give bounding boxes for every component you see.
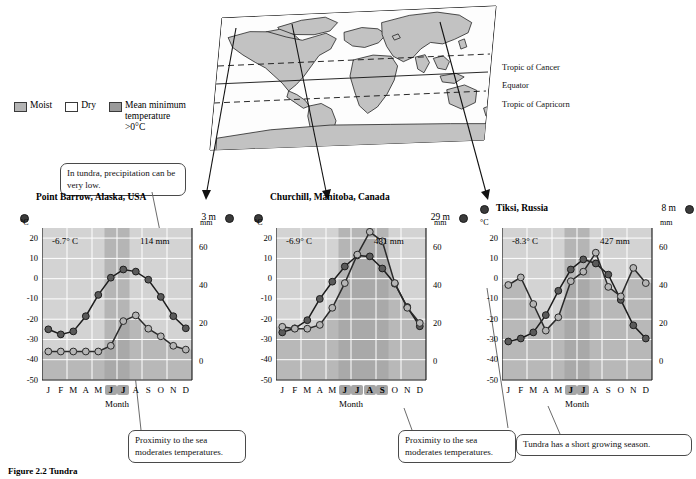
world-map-svg (208, 4, 498, 152)
figure-caption: Figure 2.2 Tundra (8, 466, 78, 476)
precipitation-series-point (82, 348, 89, 355)
precipitation-series-point (592, 249, 599, 256)
precipitation-tick-label: 0 (433, 356, 453, 366)
temperature-tick-label: 20 (252, 233, 272, 243)
month-tick-label: J (339, 385, 351, 395)
precipitation-tick-label: 40 (433, 280, 453, 290)
precipitation-series-point (279, 323, 286, 330)
climograph-title: Point Barrow, Alaska, USA (36, 192, 156, 203)
x-axis-label: Month (95, 399, 139, 409)
month-tick-label: M (326, 385, 338, 395)
month-tick-label: O (389, 385, 401, 395)
temperature-series-point (542, 312, 549, 319)
temperature-series-point (120, 266, 127, 273)
month-tick-label: M (301, 385, 313, 395)
temperature-tick-label: -30 (18, 334, 38, 344)
month-tick-label: A (364, 385, 376, 395)
temperature-tick-label: -30 (252, 334, 272, 344)
temperature-series-point (567, 266, 574, 273)
temperature-tick-label: 10 (478, 253, 498, 263)
temperature-series-point (642, 335, 649, 342)
mean-minimum-band (339, 228, 389, 380)
temperature-tick-label: -10 (252, 293, 272, 303)
callout-sea-moderates-2: Proximity to the sea moderates temperatu… (398, 430, 516, 463)
precipitation-series-point (341, 280, 348, 287)
temperature-series-point (157, 294, 164, 301)
month-tick-label: M (552, 385, 564, 395)
temperature-series-point (630, 322, 637, 329)
temperature-tick-label: -50 (478, 375, 498, 385)
precipitation-series-point (391, 280, 398, 287)
x-axis-label: Month (329, 399, 373, 409)
temperature-tick-label: -50 (252, 375, 272, 385)
legend-label-dry: Dry (81, 100, 96, 111)
annual-precipitation-label: 427 mm (600, 236, 630, 246)
temperature-tick-label: -20 (478, 314, 498, 324)
month-tick-label: M (527, 385, 539, 395)
precipitation-tick-label: 20 (433, 318, 453, 328)
month-tick-label: A (590, 385, 602, 395)
legend-label-mean-minimum: Mean minimum temperature >0°C (125, 100, 191, 133)
mean-temperature-label: -6.7° C (52, 236, 78, 246)
month-tick-label: J (42, 385, 54, 395)
precipitation-series-point (542, 327, 549, 334)
precipitation-tick-label: 60 (433, 242, 453, 252)
month-tick-label: N (627, 385, 639, 395)
precipitation-series-point (505, 282, 512, 289)
temperature-tick-label: -40 (252, 354, 272, 364)
temperature-series-point (132, 268, 139, 275)
month-tick-label: A (314, 385, 326, 395)
temperature-tick-label: -20 (18, 314, 38, 324)
temperature-tick-label: 10 (18, 253, 38, 263)
precipitation-series-point (517, 274, 524, 281)
month-tick-label: O (615, 385, 627, 395)
temperature-tick-label: -40 (478, 354, 498, 364)
precipitation-series-point (404, 304, 411, 311)
precipitation-series-point (605, 284, 612, 291)
temperature-series-point (580, 256, 587, 263)
station-marker-icon (480, 205, 489, 214)
legend-item-dry: Dry (65, 100, 96, 112)
temperature-series-point (555, 287, 562, 294)
legend-label-moist: Moist (30, 100, 52, 111)
precipitation-series-point (416, 320, 423, 327)
precipitation-series-point (366, 228, 373, 235)
temperature-tick-label: 0 (478, 273, 498, 283)
precipitation-tick-label: 60 (199, 242, 219, 252)
precipitation-tick-label: 40 (199, 280, 219, 290)
month-tick-label: J (577, 385, 589, 395)
month-tick-label: F (289, 385, 301, 395)
elevation-marker-icon (459, 214, 468, 223)
precipitation-series-point (642, 280, 649, 287)
world-map-panel (208, 4, 498, 152)
elevation-label: 8 m (661, 203, 676, 213)
temperature-series-point (366, 253, 373, 260)
temperature-series-point (107, 274, 114, 281)
precipitation-series-point (354, 251, 361, 258)
precipitation-series-point (580, 268, 587, 275)
temperature-tick-label: -40 (18, 354, 38, 364)
precipitation-tick-label: 20 (199, 318, 219, 328)
callout-sea-moderates-1: Proximity to the sea moderates temperatu… (128, 430, 246, 463)
mean-temperature-label: -8.3° C (512, 236, 538, 246)
temperature-unit-label: °C (480, 218, 489, 227)
mean-minimum-swatch-icon (109, 102, 122, 112)
temperature-series-point (517, 335, 524, 342)
temperature-tick-label: -10 (478, 293, 498, 303)
legend: Moist Dry Mean minimum temperature >0°C (14, 100, 204, 133)
climograph-plot (502, 228, 654, 382)
month-tick-label: J (276, 385, 288, 395)
precipitation-series-point (182, 346, 189, 353)
month-tick-label: D (640, 385, 652, 395)
month-tick-label: D (414, 385, 426, 395)
temperature-series-point (170, 313, 177, 320)
temperature-unit-label: °C (254, 218, 263, 227)
month-tick-label: M (67, 385, 79, 395)
month-tick-label: F (55, 385, 67, 395)
temperature-tick-label: 20 (18, 233, 38, 243)
temperature-series-point (182, 325, 189, 332)
precipitation-series-point (304, 325, 311, 332)
precipitation-series-point (329, 304, 336, 311)
precipitation-tick-label: 0 (659, 356, 679, 366)
precipitation-series-point (617, 293, 624, 300)
